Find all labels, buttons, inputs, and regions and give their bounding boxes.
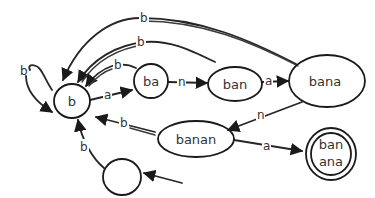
edge-ba-to-ban: n — [168, 74, 207, 89]
edge-bana-to-banan: n — [228, 102, 302, 130]
edge-bana-to-b: b — [63, 10, 298, 80]
state-ban: ban — [208, 67, 262, 101]
edge-b-to-ba: a — [90, 88, 132, 102]
edge-banan-to-banana: a — [234, 138, 302, 153]
edge-label: b — [114, 58, 122, 72]
edge-banan-to-b: b — [96, 115, 155, 135]
automaton-diagram: b b b b a n a n — [0, 0, 375, 198]
edge-label: n — [178, 75, 186, 89]
initial-arrow — [144, 173, 182, 183]
edge-ban-to-bana: a — [262, 73, 288, 88]
state-b: b — [54, 84, 90, 118]
state-label-line1: ban — [319, 137, 343, 152]
state-banana-accepting: ban ana — [306, 128, 356, 180]
state-label: ban — [223, 77, 247, 92]
edge-label: a — [263, 139, 270, 153]
edge-label: b — [20, 64, 28, 78]
state-label: b — [68, 94, 76, 109]
edge-label: a — [104, 88, 111, 102]
state-ba: ba — [134, 64, 168, 98]
edge-start-to-b: b — [78, 120, 104, 168]
state-label: ba — [143, 74, 159, 89]
state-label-line2: ana — [319, 154, 343, 169]
state-label: banan — [176, 132, 217, 147]
edge-label: b — [140, 11, 148, 25]
state-bana: bana — [289, 55, 365, 107]
edge-label: b — [80, 140, 88, 154]
state-label: bana — [309, 74, 341, 89]
state-start — [103, 159, 141, 195]
edge-label: n — [257, 108, 265, 122]
edge-label: a — [265, 74, 272, 88]
edge-label: b — [137, 35, 145, 49]
edge-label: b — [120, 116, 128, 130]
edge-b-self-loop: b — [20, 64, 52, 112]
edge-ba-to-b: b — [86, 58, 136, 86]
state-banan: banan — [158, 121, 234, 157]
